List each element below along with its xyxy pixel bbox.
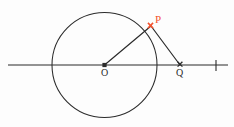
geometry-figure: O P Q (0, 0, 234, 127)
segment-pq (151, 26, 180, 65)
point-label-p: P (155, 14, 161, 24)
geometry-canvas (0, 0, 234, 127)
point-q-marker (178, 62, 183, 67)
radius-op-segment (105, 26, 152, 65)
point-label-o: O (101, 68, 108, 78)
point-p-marker (148, 23, 153, 28)
point-label-q: Q (176, 68, 183, 78)
